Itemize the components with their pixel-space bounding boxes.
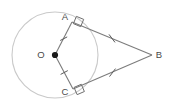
tick-mark-oc [61,71,68,75]
label-external-point-b: B [156,49,162,60]
label-center-o: O [37,49,44,60]
center-point-dot [52,52,58,58]
geometry-figure: O A C B [0,0,180,108]
label-tangent-point-a: A [62,11,69,22]
label-tangent-point-c: C [62,86,69,97]
radius-segment-oc [55,55,73,89]
tick-mark-ab [109,34,115,42]
geometry-canvas: O A C B [0,0,180,108]
